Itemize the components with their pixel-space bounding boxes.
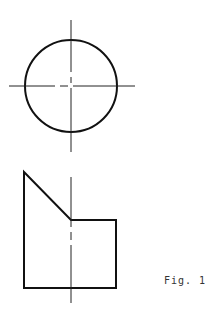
front-view — [24, 172, 116, 303]
front-view-outline — [24, 172, 116, 288]
top-view — [9, 20, 135, 152]
technical-drawing — [0, 0, 209, 320]
figure-caption: Fig. 1 — [164, 275, 206, 286]
